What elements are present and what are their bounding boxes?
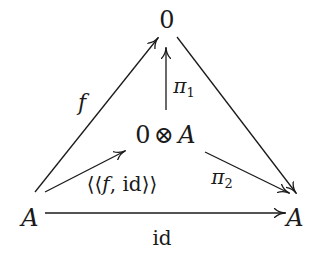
commutative-diagram: 0 0 ⊗ A A A f π1 ⟨⟨f, id⟩⟩ π2 id <box>0 0 323 262</box>
label-pi1-base: π <box>173 74 186 98</box>
tensor-operator: ⊗ <box>154 123 174 147</box>
label-pi2-base: π <box>211 165 224 189</box>
node-tensor-zero: 0 <box>135 123 150 147</box>
arrow-zero-to-a <box>177 37 296 193</box>
label-pairing-close: ⟩⟩ <box>142 172 158 196</box>
label-pi1: π1 <box>173 76 194 99</box>
label-pairing: ⟨⟨f, id⟩⟩ <box>87 174 158 194</box>
label-pi2-sub: 2 <box>224 176 232 191</box>
arrow-f <box>35 38 158 192</box>
label-id: id <box>152 228 171 248</box>
node-tensor-a: A <box>178 123 195 147</box>
label-pairing-f: f <box>102 172 109 196</box>
node-zero-top: 0 <box>159 8 174 32</box>
label-pairing-id: , id <box>110 172 142 196</box>
label-pairing-open: ⟨⟨ <box>87 172 103 196</box>
label-pi2: π2 <box>211 167 232 190</box>
label-f: f <box>78 92 86 114</box>
label-pi1-sub: 1 <box>186 85 194 100</box>
node-a-left: A <box>21 206 38 230</box>
node-a-right: A <box>286 206 303 230</box>
